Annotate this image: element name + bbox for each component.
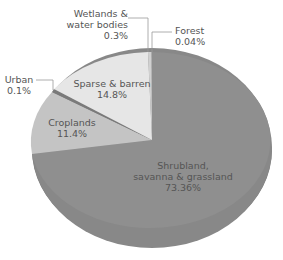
wetlands-pct: 0.3%: [60, 30, 128, 41]
label-forest: Forest 0.04%: [175, 25, 205, 47]
label-croplands: Croplands 11.4%: [42, 117, 102, 139]
shrubland-name-2: savanna & grassland: [128, 171, 238, 182]
label-urban: Urban 0.1%: [4, 74, 34, 96]
urban-pct: 0.1%: [4, 85, 34, 96]
sparse-pct: 14.8%: [72, 89, 152, 100]
urban-name: Urban: [4, 74, 34, 85]
croplands-name: Croplands: [42, 117, 102, 128]
shrubland-pct: 73.36%: [128, 182, 238, 193]
forest-name: Forest: [175, 25, 205, 36]
label-sparse-barren: Sparse & barren 14.8%: [72, 78, 152, 100]
leader-wetlands: [128, 18, 148, 52]
wetlands-name-2: water bodies: [60, 19, 128, 30]
forest-pct: 0.04%: [175, 36, 205, 47]
croplands-pct: 11.4%: [42, 128, 102, 139]
sparse-name: Sparse & barren: [72, 78, 152, 89]
shrubland-name-1: Shrubland,: [128, 160, 238, 171]
label-shrubland: Shrubland, savanna & grassland 73.36%: [128, 160, 238, 193]
label-wetlands: Wetlands & water bodies 0.3%: [60, 8, 128, 41]
wetlands-name-1: Wetlands &: [60, 8, 128, 19]
leader-urban: [36, 80, 53, 90]
